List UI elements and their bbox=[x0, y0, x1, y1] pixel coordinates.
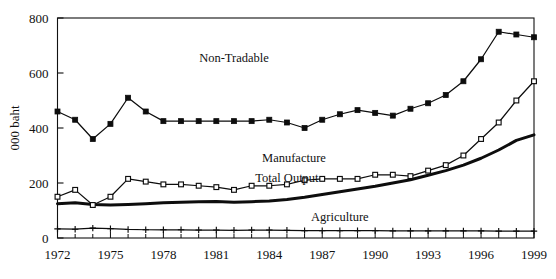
marker-manufacture bbox=[373, 172, 378, 177]
marker-agriculture bbox=[372, 227, 378, 233]
marker-manufacture bbox=[232, 187, 237, 192]
y-axis-tick-labels: 0200400600800 bbox=[29, 11, 49, 246]
marker-non-tradable bbox=[267, 117, 272, 122]
marker-non-tradable bbox=[302, 126, 307, 131]
marker-manufacture bbox=[126, 176, 131, 181]
marker-manufacture bbox=[355, 176, 360, 181]
marker-non-tradable bbox=[390, 113, 395, 118]
marker-agriculture bbox=[354, 227, 360, 233]
marker-agriculture bbox=[319, 227, 325, 233]
x-tick-label: 1999 bbox=[521, 247, 547, 262]
x-axis-ticks bbox=[58, 232, 535, 239]
marker-agriculture bbox=[195, 227, 201, 233]
marker-manufacture bbox=[179, 182, 184, 187]
marker-agriculture bbox=[443, 228, 449, 234]
marker-agriculture bbox=[54, 226, 60, 232]
marker-non-tradable bbox=[126, 95, 131, 100]
marker-manufacture bbox=[408, 174, 413, 179]
x-tick-label: 1972 bbox=[45, 247, 71, 262]
x-tick-label: 1987 bbox=[309, 247, 336, 262]
x-tick-label: 1984 bbox=[256, 247, 283, 262]
marker-manufacture bbox=[390, 172, 395, 177]
marker-non-tradable bbox=[90, 137, 95, 142]
x-tick-label: 1981 bbox=[203, 247, 229, 262]
marker-non-tradable bbox=[231, 119, 236, 124]
marker-agriculture bbox=[478, 228, 484, 234]
marker-agriculture bbox=[407, 228, 413, 234]
marker-manufacture bbox=[196, 183, 201, 188]
marker-agriculture bbox=[496, 228, 502, 234]
x-tick-label: 1975 bbox=[97, 247, 123, 262]
x-tick-label: 1996 bbox=[468, 247, 495, 262]
x-tick-label: 1978 bbox=[150, 247, 176, 262]
marker-agriculture bbox=[531, 228, 537, 234]
marker-non-tradable bbox=[408, 106, 413, 111]
data-series-group bbox=[58, 32, 535, 231]
marker-agriculture bbox=[248, 227, 254, 233]
marker-agriculture bbox=[301, 227, 307, 233]
y-axis-title-text: 000 baht bbox=[7, 105, 22, 151]
x-tick-label: 1990 bbox=[362, 247, 388, 262]
marker-non-tradable bbox=[214, 119, 219, 124]
marker-manufacture bbox=[479, 137, 484, 142]
marker-manufacture bbox=[320, 176, 325, 181]
series-label-non-tradable: Non-Tradable bbox=[199, 51, 269, 65]
marker-non-tradable bbox=[514, 32, 519, 37]
marker-non-tradable bbox=[320, 117, 325, 122]
line-chart-figure: 0200400600800 19721975197819811984198719… bbox=[0, 0, 556, 279]
series-line-non-tradable bbox=[58, 32, 535, 139]
marker-agriculture bbox=[460, 228, 466, 234]
x-axis-tick-labels: 1972197519781981198419871990199319961999 bbox=[45, 247, 548, 262]
marker-non-tradable bbox=[179, 119, 184, 124]
marker-manufacture bbox=[337, 176, 342, 181]
series-label-total-output: Total Output bbox=[255, 171, 319, 185]
marker-manufacture bbox=[73, 187, 78, 192]
marker-non-tradable bbox=[249, 119, 254, 124]
x-tick-label: 1993 bbox=[415, 247, 441, 262]
marker-manufacture bbox=[161, 182, 166, 187]
marker-agriculture bbox=[337, 227, 343, 233]
y-tick-label: 800 bbox=[29, 11, 49, 26]
marker-manufacture bbox=[514, 98, 519, 103]
marker-agriculture bbox=[125, 226, 131, 232]
marker-non-tradable bbox=[355, 108, 360, 113]
marker-non-tradable bbox=[461, 79, 466, 84]
marker-manufacture bbox=[461, 153, 466, 158]
y-tick-label: 0 bbox=[42, 231, 49, 246]
marker-agriculture bbox=[72, 226, 78, 232]
marker-non-tradable bbox=[55, 109, 60, 114]
series-label-agriculture: Agriculture bbox=[311, 210, 369, 224]
marker-agriculture bbox=[513, 228, 519, 234]
y-tick-label: 400 bbox=[29, 121, 49, 136]
marker-agriculture bbox=[390, 228, 396, 234]
marker-agriculture bbox=[143, 227, 149, 233]
marker-non-tradable bbox=[143, 109, 148, 114]
marker-agriculture bbox=[284, 227, 290, 233]
marker-agriculture bbox=[90, 225, 96, 231]
marker-agriculture bbox=[425, 228, 431, 234]
marker-non-tradable bbox=[532, 35, 537, 40]
marker-non-tradable bbox=[426, 101, 431, 106]
marker-non-tradable bbox=[196, 119, 201, 124]
marker-non-tradable bbox=[373, 110, 378, 115]
marker-manufacture bbox=[532, 79, 537, 84]
marker-agriculture bbox=[213, 227, 219, 233]
y-tick-label: 600 bbox=[29, 66, 49, 81]
marker-non-tradable bbox=[161, 119, 166, 124]
marker-agriculture bbox=[107, 225, 113, 231]
marker-agriculture bbox=[160, 227, 166, 233]
marker-manufacture bbox=[443, 163, 448, 168]
marker-manufacture bbox=[55, 194, 60, 199]
marker-agriculture bbox=[231, 227, 237, 233]
marker-non-tradable bbox=[108, 121, 113, 126]
marker-manufacture bbox=[249, 183, 254, 188]
chart-canvas: 0200400600800 19721975197819811984198719… bbox=[0, 0, 556, 279]
marker-non-tradable bbox=[496, 29, 501, 34]
series-annotation-labels: Non-TradableManufactureTotal OutputAgric… bbox=[199, 51, 369, 224]
marker-manufacture bbox=[143, 179, 148, 184]
marker-manufacture bbox=[108, 194, 113, 199]
marker-manufacture bbox=[496, 120, 501, 125]
marker-non-tradable bbox=[337, 112, 342, 117]
marker-non-tradable bbox=[73, 117, 78, 122]
y-tick-label: 200 bbox=[29, 176, 49, 191]
